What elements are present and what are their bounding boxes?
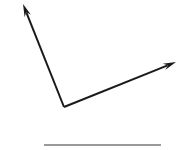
- diagram-background: [0, 0, 183, 150]
- angle-diagram-canvas: [0, 0, 183, 150]
